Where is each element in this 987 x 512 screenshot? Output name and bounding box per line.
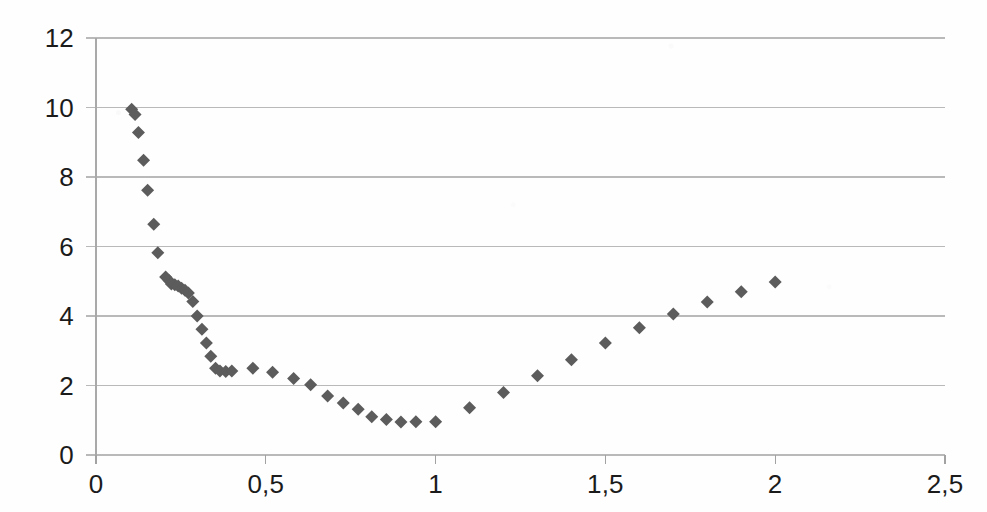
data-point [200,337,213,350]
data-point [304,378,317,391]
y-tick-label-10: 10 [45,93,74,123]
data-point [191,310,204,323]
data-point [287,372,300,385]
data-point [463,401,476,414]
y-tick-labels: 024681012 [45,23,74,470]
x-tick-label-1: 1 [428,469,443,499]
x-tick-label-2: 2 [768,469,783,499]
plot-area: 024681012 00,511,522,5 [0,0,987,512]
data-point [565,353,578,366]
y-tick-label-0: 0 [59,440,74,470]
data-point [266,366,279,379]
y-tick-label-8: 8 [59,162,74,192]
data-point [195,323,208,336]
data-point [769,275,782,288]
data-point-markers [125,103,782,429]
data-point [497,386,510,399]
y-tick-label-4: 4 [59,301,74,331]
data-point [204,350,217,363]
y-tick-label-12: 12 [45,23,74,53]
data-point [735,285,748,298]
y-tick-label-2: 2 [59,371,74,401]
data-point [137,154,150,167]
data-point [132,126,145,139]
data-point [380,413,393,426]
data-point [394,415,407,428]
data-point [633,321,646,334]
data-point [599,337,612,350]
data-point [337,396,350,409]
scatter-chart: 024681012 00,511,522,5 [0,0,987,512]
x-axis-ticks [96,455,945,464]
data-point [531,369,544,382]
data-point [141,184,154,197]
data-point [147,218,160,231]
data-point [352,403,365,416]
x-tick-label-2-5: 2,5 [927,469,964,499]
data-point [667,307,680,320]
data-point [246,362,259,375]
data-point [151,246,164,259]
data-point [321,389,334,402]
data-point [701,296,714,309]
y-tick-label-6: 6 [59,232,74,262]
x-tick-label-1-5: 1,5 [587,469,624,499]
data-point [365,410,378,423]
gridlines [86,38,945,455]
x-tick-labels: 00,511,522,5 [89,469,964,499]
data-point [409,415,422,428]
x-tick-label-0-5: 0,5 [247,469,284,499]
x-tick-label-0: 0 [89,469,104,499]
data-point [429,415,442,428]
